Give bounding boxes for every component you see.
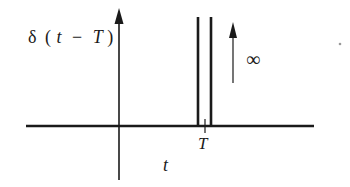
function-label: δ ( t − T ) — [28, 27, 113, 48]
infinity-label: ∞ — [246, 48, 260, 70]
delta-symbol: δ — [28, 27, 36, 47]
tick-label-T: T — [198, 134, 209, 153]
infinity-arrow-icon — [229, 22, 237, 38]
vertical-axis-arrow-icon — [115, 8, 124, 24]
delta-function-diagram: δ ( t − T ) ∞ T t — [0, 0, 350, 187]
x-axis-label: t — [163, 155, 169, 175]
print-dot — [339, 43, 342, 46]
